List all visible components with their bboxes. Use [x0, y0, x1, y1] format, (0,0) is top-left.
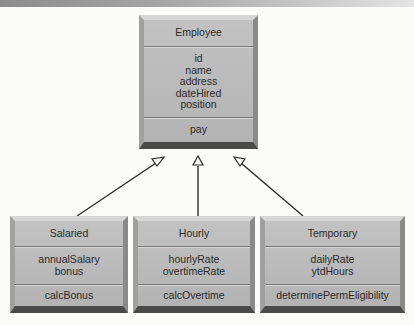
attributes-section: dailyRate ytdHours	[265, 247, 400, 285]
methods-section: determinePermEligibility	[265, 285, 400, 306]
attribute: hourlyRate	[138, 254, 250, 266]
class-box-temporary: Temporary dailyRate ytdHours determinePe…	[260, 216, 405, 313]
method: calcOvertime	[138, 290, 250, 302]
attribute: position	[144, 99, 253, 111]
method: calcBonus	[15, 290, 123, 302]
method: determinePermEligibility	[265, 290, 400, 302]
class-name-text: Salaried	[15, 228, 123, 240]
methods-section: calcOvertime	[138, 285, 250, 306]
attribute: annualSalary	[15, 254, 123, 266]
class-name-text: Employee	[144, 27, 253, 39]
class-name: Hourly	[138, 221, 250, 247]
attributes-section: hourlyRate overtimeRate	[138, 247, 250, 285]
attribute: ytdHours	[265, 266, 400, 278]
attributes-section: id name address dateHired position	[144, 47, 253, 118]
arrow-temporary	[241, 163, 303, 216]
class-box-hourly: Hourly hourlyRate overtimeRate calcOvert…	[133, 216, 255, 313]
class-name: Employee	[144, 20, 253, 47]
attributes-section: annualSalary bonus	[15, 247, 123, 285]
hollow-triangle-icon	[193, 156, 203, 165]
methods-section: pay	[144, 118, 253, 142]
method: pay	[144, 124, 253, 136]
class-box-employee: Employee id name address dateHired posit…	[139, 15, 258, 149]
class-box-salaried: Salaried annualSalary bonus calcBonus	[10, 216, 128, 313]
class-name-text: Hourly	[138, 228, 250, 240]
class-name-text: Temporary	[265, 228, 400, 240]
attribute: overtimeRate	[138, 266, 250, 278]
class-name: Salaried	[15, 221, 123, 247]
class-name: Temporary	[265, 221, 400, 247]
attribute: bonus	[15, 266, 123, 278]
attribute: dailyRate	[265, 254, 400, 266]
arrow-salaried	[77, 163, 156, 216]
methods-section: calcBonus	[15, 285, 123, 306]
